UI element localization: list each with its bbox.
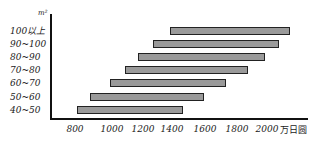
bar-100-plus bbox=[170, 27, 290, 35]
y-tick-label: 70~80 bbox=[10, 65, 48, 75]
bar-90-100 bbox=[153, 40, 279, 48]
bar-40-50 bbox=[77, 106, 183, 114]
range-bar-chart: m² 100以上 90~100 80~90 70~80 60~70 50~60 … bbox=[0, 0, 323, 142]
x-tick-label: 1200 bbox=[132, 124, 155, 134]
bar-70-80 bbox=[125, 66, 248, 74]
x-tick-label: 1400 bbox=[161, 124, 184, 134]
x-axis bbox=[50, 118, 308, 120]
bar-60-70 bbox=[110, 79, 226, 87]
y-tick-label: 80~90 bbox=[10, 52, 48, 62]
x-tick-label: 2000 bbox=[256, 124, 279, 134]
y-tick-label: 100以上 bbox=[10, 26, 48, 36]
x-tick-label: 1000 bbox=[101, 124, 124, 134]
x-tick-label: 1600 bbox=[194, 124, 217, 134]
x-tick-label: 800 bbox=[66, 124, 83, 134]
y-unit-label: m² bbox=[38, 9, 47, 17]
bar-80-90 bbox=[138, 53, 265, 61]
y-tick-label: 50~60 bbox=[10, 92, 48, 102]
y-axis bbox=[50, 14, 52, 120]
x-tick-label: 1800 bbox=[226, 124, 249, 134]
y-tick-label: 40~50 bbox=[10, 105, 48, 115]
y-tick-label: 90~100 bbox=[10, 39, 48, 49]
y-tick-label: 60~70 bbox=[10, 78, 48, 88]
bar-50-60 bbox=[90, 93, 204, 101]
x-unit-label: 万日圆 bbox=[280, 123, 307, 136]
